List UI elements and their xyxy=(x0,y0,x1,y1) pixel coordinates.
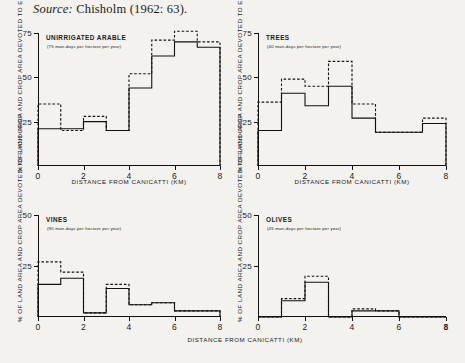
x-tick-mark xyxy=(446,317,447,321)
x-tick-mark xyxy=(446,166,447,170)
x-tick-mark xyxy=(84,317,85,321)
panel-subtitle-trees: (40 man-days per hectare per year) xyxy=(267,44,341,49)
x-tick-mark xyxy=(258,317,259,321)
x-tick-mark xyxy=(305,317,306,321)
y-tick-mark xyxy=(34,215,38,216)
x-tick-label: 8 xyxy=(443,322,448,332)
y-axis-title-olives: % OF LAND AREA AND CROP AREA DEVOTED TO … xyxy=(236,114,243,322)
x-tick-mark xyxy=(305,166,306,170)
x-tick-label: 4 xyxy=(349,322,354,332)
x-tick-mark xyxy=(129,317,130,321)
y-tick-mark xyxy=(254,77,258,78)
x-tick-mark xyxy=(399,166,400,170)
x-tick-label: 8 xyxy=(217,322,222,332)
x-tick-mark xyxy=(258,166,259,170)
x-tick-label: 6 xyxy=(396,322,401,332)
x-tick-label: 2 xyxy=(81,322,86,332)
x-axis-title-trees: DISTANCE FROM CANICATTI (KM) xyxy=(258,178,446,185)
x-tick-mark xyxy=(220,317,221,321)
panel-subtitle-olives: (45 man-days per hectare per year) xyxy=(267,226,341,231)
x-tick-label: 0 xyxy=(255,322,260,332)
x-tick-mark xyxy=(352,166,353,170)
y-axis-title-vines: % OF LAND AREA AND CROP AREA DEVOTED TO … xyxy=(16,114,23,322)
x-tick-label: 2 xyxy=(302,322,307,332)
panel-subtitle-unirrigated-arable: (75 man-days per hectare per year) xyxy=(47,44,121,49)
panel-title-trees: TREES xyxy=(266,34,290,41)
source-label: Source: xyxy=(33,2,73,16)
x-tick-mark xyxy=(84,166,85,170)
panel-title-vines: VINES xyxy=(46,216,67,223)
y-tick-mark xyxy=(34,122,38,123)
x-tick-mark xyxy=(220,166,221,170)
x-tick-mark xyxy=(175,317,176,321)
source-text: Chisholm (1962: 63). xyxy=(76,2,187,16)
x-tick-label: 4 xyxy=(126,322,131,332)
x-tick-mark xyxy=(38,317,39,321)
axes-unirrigated-arable xyxy=(38,33,220,166)
x-tick-label: 0 xyxy=(35,322,40,332)
source-citation: Source: Chisholm (1962: 63). xyxy=(33,2,187,17)
x-tick-label: 6 xyxy=(172,322,177,332)
y-tick-mark xyxy=(254,215,258,216)
y-tick-mark xyxy=(254,33,258,34)
x-tick-mark xyxy=(399,317,400,321)
panel-title-olives: OLIVES xyxy=(266,216,292,223)
x-tick-mark xyxy=(129,166,130,170)
x-tick-mark xyxy=(38,166,39,170)
panel-subtitle-vines: (90 man-days per hectare per year) xyxy=(47,226,121,231)
axes-trees xyxy=(258,33,446,166)
panel-title-unirrigated-arable: UNIRRIGATED ARABLE xyxy=(46,34,126,41)
y-tick-mark xyxy=(254,266,258,267)
x-axis-title-shared-bottom: DISTANCE FROM CANICATTI (KM) xyxy=(150,336,340,343)
y-tick-mark xyxy=(254,122,258,123)
x-tick-mark xyxy=(352,317,353,321)
y-tick-mark xyxy=(34,77,38,78)
x-axis-title-unirrigated-arable: DISTANCE FROM CANICATTI (KM) xyxy=(38,178,220,185)
x-tick-mark xyxy=(175,166,176,170)
y-tick-mark xyxy=(34,266,38,267)
y-tick-mark xyxy=(34,33,38,34)
